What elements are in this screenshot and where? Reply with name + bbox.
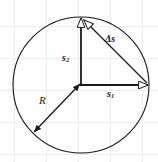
vector-circle-diagram: s2 s1 Δs R — [0, 0, 158, 162]
background-grid — [0, 0, 158, 162]
delta-s-vector — [84, 20, 147, 83]
center-point — [80, 84, 83, 87]
diagram-canvas — [0, 0, 158, 162]
radius-arrow — [34, 84, 80, 132]
